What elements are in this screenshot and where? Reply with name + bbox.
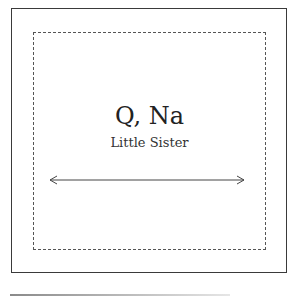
bottom-divider xyxy=(10,294,230,296)
double-arrow-icon xyxy=(48,174,246,186)
title-text: Q, Na xyxy=(0,103,299,129)
subtitle-text: Little Sister xyxy=(0,134,299,152)
